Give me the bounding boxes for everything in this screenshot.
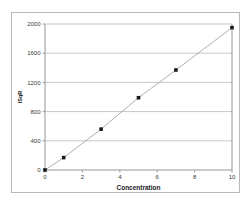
x-tick-label: 10 xyxy=(229,174,236,180)
data-point-marker xyxy=(43,168,47,172)
data-point-marker xyxy=(137,96,141,100)
x-tick-label: 0 xyxy=(43,174,47,180)
data-point-marker xyxy=(62,156,66,160)
x-tick-label: 4 xyxy=(118,174,122,180)
y-tick-label: 1600 xyxy=(27,50,41,56)
data-point-marker xyxy=(230,26,234,30)
x-axis-ticks: 0246810 xyxy=(43,170,236,180)
chart-figure: 04008001200160020000246810ConcentrationI… xyxy=(0,0,251,205)
scatter-chart: 04008001200160020000246810ConcentrationI… xyxy=(0,0,251,205)
y-tick-label: 800 xyxy=(30,109,41,115)
y-axis-ticks: 0400800120016002000 xyxy=(27,21,45,173)
x-axis-title: Concentration xyxy=(116,184,160,191)
y-tick-label: 0 xyxy=(37,167,41,173)
x-tick-label: 8 xyxy=(193,174,197,180)
y-tick-label: 400 xyxy=(30,138,41,144)
y-tick-label: 1200 xyxy=(27,80,41,86)
y-axis-title: ISqR xyxy=(17,91,23,104)
x-tick-label: 2 xyxy=(81,174,85,180)
y-tick-label: 2000 xyxy=(27,21,41,27)
data-point-marker xyxy=(174,68,178,72)
data-point-marker xyxy=(99,127,103,131)
gridlines xyxy=(45,24,232,141)
x-tick-label: 6 xyxy=(156,174,160,180)
